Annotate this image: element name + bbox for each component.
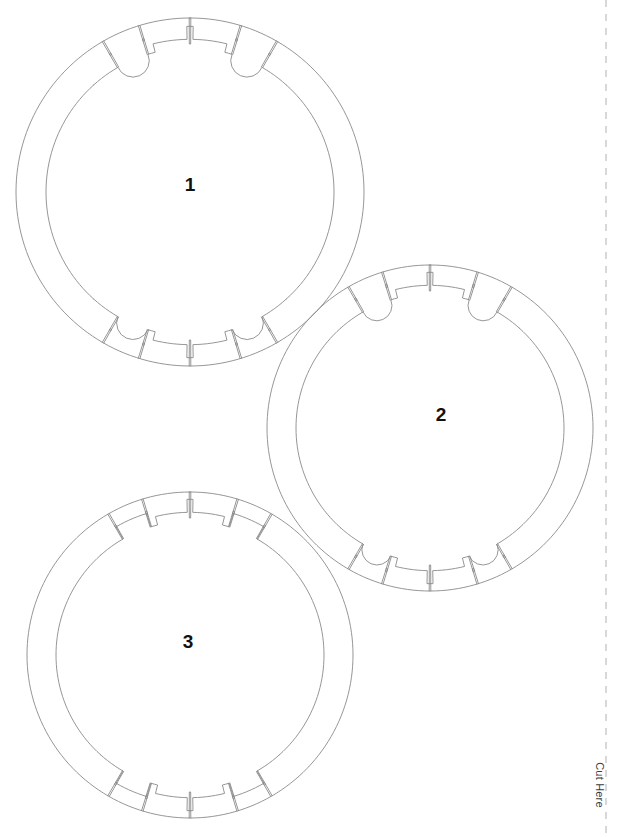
part-3-inner-arc-left: [56, 555, 100, 754]
part-1-inner-arc-right: [286, 85, 334, 299]
part-2-outer-slit-0: [348, 286, 357, 301]
part-2-tabs-bottom: [340, 528, 519, 584]
part-1-tabs-top: [94, 26, 287, 85]
part-3-outer-slit-7: [189, 792, 191, 818]
part-3-outer-circle: [27, 492, 353, 818]
part-2-bottom-slit-1: [469, 556, 475, 572]
part-2-inner-arc-right: [520, 328, 564, 527]
part-3-outer-slit-9: [108, 782, 117, 797]
part-number-label-3: 3: [183, 632, 194, 651]
part-1-bottom-slit-2: [142, 330, 148, 346]
part-number-label-1: 1: [185, 175, 196, 194]
part-2-outer-slit-5: [503, 555, 512, 570]
part-3-outer-slit-2: [189, 492, 191, 518]
part-3-tabs-top: [100, 499, 279, 555]
part-1-outer-slit-2: [189, 18, 191, 44]
part-2-inner-arc-left: [296, 328, 340, 527]
part-2-tabs-top: [340, 272, 519, 328]
part-1-bottom-slit-1: [231, 330, 237, 346]
part-1-outer-slit-7: [189, 340, 191, 366]
part-2-outer-circle: [267, 265, 593, 591]
part-3-inner-arc-right: [280, 555, 324, 754]
cut-template-drawing: [0, 0, 623, 837]
part-number-label-2: 2: [436, 405, 447, 424]
part-2-outer-slit-9: [348, 555, 357, 570]
part-1-tabs-bottom: [94, 299, 287, 358]
part-1-top-slit-2: [231, 39, 237, 55]
part-2-outer-slit-4: [503, 286, 512, 301]
part-3-tabs-bottom: [100, 755, 279, 811]
part-2-top-slit-1: [385, 284, 391, 300]
template-sheet: 1 2 3 Cut Here: [0, 0, 623, 837]
part-1-top-slit-1: [142, 39, 148, 55]
part-3-outer-slit-0: [108, 513, 117, 528]
part-2-top-slit-2: [469, 284, 475, 300]
part-2-bottom-slit-2: [385, 556, 391, 572]
part-3-outer-slit-4: [263, 513, 272, 528]
part-2-outer-slit-7: [429, 565, 431, 591]
part-3-outer-slit-5: [263, 782, 272, 797]
cut-here-label: Cut Here: [594, 762, 606, 808]
part-2-outer-slit-2: [429, 265, 431, 291]
part-1-inner-arc-left: [46, 85, 94, 299]
